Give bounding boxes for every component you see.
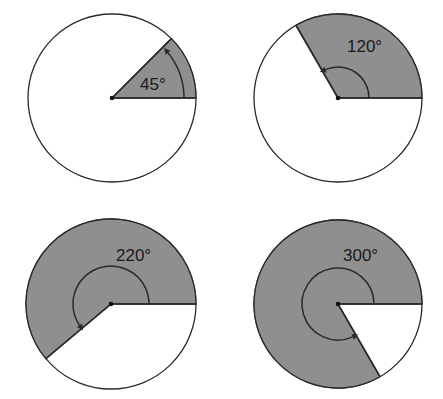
angle-label: 220° (116, 246, 151, 265)
figure-angle-120: 120° (254, 14, 422, 182)
angle-label: 120° (347, 37, 382, 56)
figure-angle-220: 220° (26, 219, 196, 389)
angle-label: 300° (343, 246, 378, 265)
figure-angle-300: 300° (254, 220, 422, 388)
vertex-dot (336, 302, 341, 307)
angle-label: 45° (140, 75, 166, 94)
vertex-dot (110, 96, 115, 101)
figure-angle-45: 45° (28, 14, 196, 182)
vertex-dot (336, 96, 341, 101)
vertex-dot (109, 302, 114, 307)
angle-diagram: 45° 120° 220° 300° (0, 0, 443, 399)
